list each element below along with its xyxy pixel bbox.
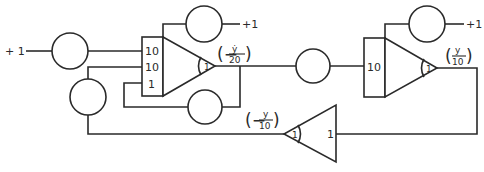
label-numerator: y [263,109,269,119]
wire-int1-damping-out [222,66,240,107]
label-denominator: 10 [452,57,464,67]
integrator-2-output-label: ( y 10 ) [445,45,473,67]
integrator-1-gain: 1 [204,62,210,72]
integrator-1-input-1: 10 [145,61,159,74]
inverter: 1 1 [284,105,336,162]
integrator-2-input-0: 10 [367,61,381,74]
pot-int2-ic-icon[interactable] [409,6,445,42]
label-denominator: 10 [259,121,271,131]
wire-int1-to-ic-pot [163,24,186,37]
wire-feedback-pot-to-int1 [88,67,142,79]
pot-input-icon[interactable] [52,33,88,69]
wire-int2-to-ic-pot [385,24,409,38]
label-numerator: ẏ [232,44,238,54]
label-denominator: 20 [229,55,241,65]
source-label-int2: +1 [466,18,482,31]
analog-computer-diagram: + 1 +1 +1 10 10 1 1 (− ẏ 20 ) 10 1 ( y 1… [0,0,484,172]
integrator-2: 10 1 [364,38,437,97]
inverter-gain: 1 [292,130,298,140]
pot-middle-icon[interactable] [296,49,330,83]
label-close: ) [466,46,473,66]
label-close: ) [273,110,280,130]
inverter-output-label: (− y 10 ) [245,109,280,131]
integrator-1: 10 10 1 1 [142,37,215,96]
source-label-left: + 1 [5,45,25,58]
pot-feedback-left-icon[interactable] [70,79,106,115]
label-numerator: y [455,45,461,55]
integrator-1-input-2: 1 [148,78,155,91]
integrator-1-input-0: 10 [145,45,159,58]
integrator-1-output-label: (− ẏ 20 ) [217,44,252,65]
inverter-input-gain: 1 [327,128,334,141]
pot-int1-ic-icon[interactable] [186,6,222,42]
pot-int1-damping-icon[interactable] [188,90,222,124]
label-open: ( [445,46,452,66]
label-close: ) [245,44,252,64]
source-label-int1: +1 [242,18,258,31]
integrator-2-gain: 1 [426,64,432,74]
